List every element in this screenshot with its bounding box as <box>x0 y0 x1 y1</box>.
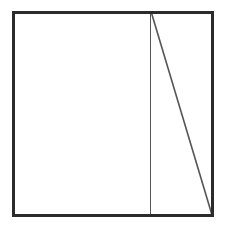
geometric-figure <box>0 0 226 230</box>
figure-canvas <box>0 0 226 230</box>
outer-square-fill <box>14 13 213 216</box>
